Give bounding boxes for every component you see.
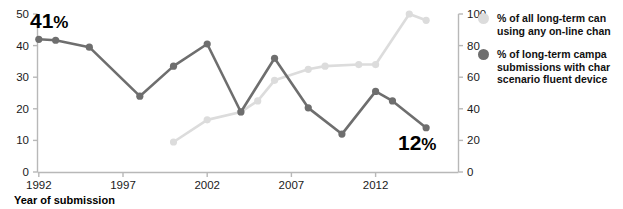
data-point-marker	[204, 40, 211, 47]
left-tick-label: 0	[23, 166, 29, 178]
data-point-marker	[136, 93, 143, 100]
data-point-marker	[423, 124, 430, 131]
data-point-marker	[338, 130, 345, 137]
data-point-marker	[271, 77, 278, 84]
data-point-marker	[170, 63, 177, 70]
series-layer	[35, 10, 430, 145]
right-tick-label: 20	[467, 134, 480, 146]
data-point-marker	[305, 66, 312, 73]
legend-item-label: % of all long-term canusing any on-line …	[497, 12, 611, 37]
data-point-marker	[35, 36, 42, 43]
data-point-marker	[271, 55, 278, 62]
x-tick-label: 2012	[363, 179, 389, 191]
left-tick-label: 50	[16, 8, 29, 20]
data-point-marker	[372, 61, 379, 68]
chart-legend: % of all long-term canusing any on-line …	[478, 6, 623, 101]
legend-item-fluent-device: % of long-term campasubmissions with cha…	[478, 48, 623, 86]
svg-text:41%: 41%	[30, 9, 68, 32]
left-tick-label: 30	[16, 71, 29, 83]
data-point-marker	[204, 116, 211, 123]
data-point-marker	[389, 97, 396, 104]
left-y-ticks: 50 40 30 20 10 0	[16, 8, 37, 178]
data-point-marker	[305, 104, 312, 111]
x-axis-title: Year of submission	[14, 194, 115, 206]
data-point-marker	[355, 61, 362, 68]
left-tick-label: 10	[16, 134, 29, 146]
legend-item-online-channel: % of all long-term canusing any on-line …	[478, 12, 623, 37]
annotation-value: 12	[398, 131, 421, 154]
annotation-value: 41	[30, 9, 54, 32]
right-tick-label: 40	[467, 103, 480, 115]
series-line	[174, 14, 427, 142]
data-point-marker	[321, 63, 328, 70]
x-tick-label: 1992	[26, 179, 52, 191]
annotation-suffix: %	[53, 13, 68, 32]
data-point-marker	[372, 88, 379, 95]
data-point-marker	[406, 10, 413, 17]
x-tick-label: 2002	[194, 179, 220, 191]
left-tick-label: 20	[16, 103, 29, 115]
svg-text:12%: 12%	[398, 131, 436, 154]
data-point-marker	[237, 108, 244, 115]
series-online-channel	[170, 10, 430, 145]
x-ticks: 1992 1997 2002 2007 2012	[26, 173, 388, 192]
data-point-marker	[52, 37, 59, 44]
legend-item-label: % of long-term campasubmissions with cha…	[497, 48, 610, 86]
series-fluent-device	[35, 36, 430, 138]
data-point-marker	[423, 17, 430, 24]
annotation-suffix: %	[421, 135, 436, 154]
legend-marker-icon	[478, 13, 489, 24]
annotation-41-percent: 41%	[30, 9, 68, 32]
data-point-marker	[254, 97, 261, 104]
right-tick-label: 0	[467, 166, 473, 178]
series-line	[39, 39, 426, 134]
legend-marker-icon	[478, 49, 489, 60]
data-point-marker	[86, 44, 93, 51]
x-tick-label: 2007	[279, 179, 305, 191]
x-tick-label: 1997	[110, 179, 136, 191]
annotation-12-percent: 12%	[398, 131, 436, 154]
left-tick-label: 40	[16, 40, 29, 52]
data-point-marker	[170, 138, 177, 145]
chart-container: 50 40 30 20 10 0 100 80 60 40 20 0	[0, 0, 623, 209]
